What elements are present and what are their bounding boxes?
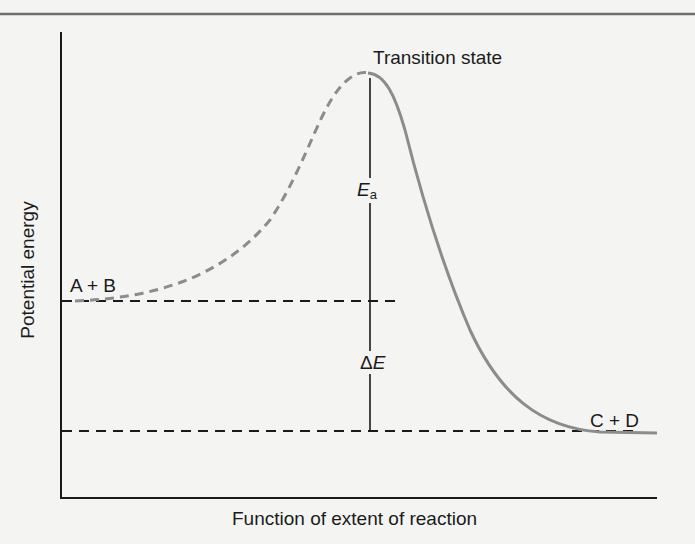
ea-symbol: E (357, 179, 370, 200)
transition-state-label: Transition state (373, 48, 502, 67)
reaction-curve-approach (75, 73, 368, 301)
activation-energy-label: Ea (356, 178, 378, 203)
x-axis-label: Function of extent of reaction (232, 509, 477, 528)
energy-change-label: ΔE (359, 351, 386, 374)
ea-subscript: a (370, 187, 377, 202)
delta-symbol: Δ (360, 352, 373, 373)
y-axis-label: Potential energy (18, 201, 37, 338)
reactants-label: A + B (70, 276, 116, 295)
energy-diagram (0, 0, 695, 544)
reaction-curve-descent (368, 73, 657, 433)
de-symbol: E (373, 352, 386, 373)
products-label: C + D (590, 411, 639, 430)
